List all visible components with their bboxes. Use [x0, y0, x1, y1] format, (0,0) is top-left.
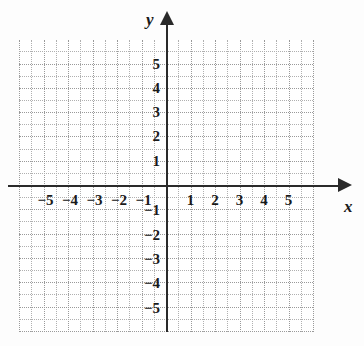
x-tick-label: 3	[236, 193, 244, 208]
y-tick-label: −3	[130, 251, 160, 266]
x-tick-label: 1	[187, 193, 195, 208]
x-axis-arrow-icon	[338, 178, 352, 192]
y-tick-label: 2	[130, 129, 160, 144]
y-tick-label: 1	[130, 153, 160, 168]
x-tick-label: −5	[37, 193, 53, 208]
y-tick-label: 4	[130, 80, 160, 95]
y-tick-label: 3	[130, 105, 160, 120]
coordinate-plane: −5−4−3−2−11234554321−1−2−3−4−5 x y	[0, 0, 364, 346]
y-tick-label: −2	[130, 227, 160, 242]
y-tick-label: −4	[130, 276, 160, 291]
x-axis-line	[8, 185, 346, 187]
y-tick-label: 5	[130, 56, 160, 71]
y-tick-label: −5	[130, 300, 160, 315]
x-tick-label: −4	[62, 193, 78, 208]
y-axis-line	[166, 18, 168, 332]
y-tick-label: −1	[130, 203, 160, 218]
x-axis-label: x	[344, 198, 353, 215]
x-tick-label: 4	[260, 193, 268, 208]
y-axis-arrow-icon	[160, 11, 174, 25]
x-tick-label: −2	[111, 193, 127, 208]
x-tick-label: 2	[211, 193, 219, 208]
x-tick-label: −3	[86, 193, 102, 208]
y-axis-label: y	[146, 11, 154, 28]
x-tick-label: 5	[285, 193, 293, 208]
